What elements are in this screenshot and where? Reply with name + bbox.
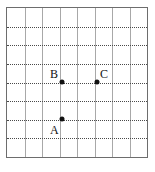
point-label-c: C bbox=[100, 68, 108, 80]
point-label-a: A bbox=[50, 124, 59, 136]
grid-horizontal-line bbox=[7, 45, 147, 46]
grid-horizontal-line bbox=[7, 120, 147, 121]
point-marker-a bbox=[60, 117, 65, 122]
point-marker-b bbox=[60, 80, 65, 85]
point-label-b: B bbox=[50, 68, 58, 80]
grid-horizontal-line bbox=[7, 101, 147, 102]
grid-horizontal-line bbox=[7, 27, 147, 28]
point-marker-c bbox=[95, 80, 100, 85]
grid-horizontal-line bbox=[7, 138, 147, 139]
grid-horizontal-line bbox=[7, 64, 147, 65]
grid-horizontal-line bbox=[7, 83, 147, 84]
grid-figure: BCA bbox=[0, 0, 155, 172]
grid-plate bbox=[6, 7, 148, 158]
